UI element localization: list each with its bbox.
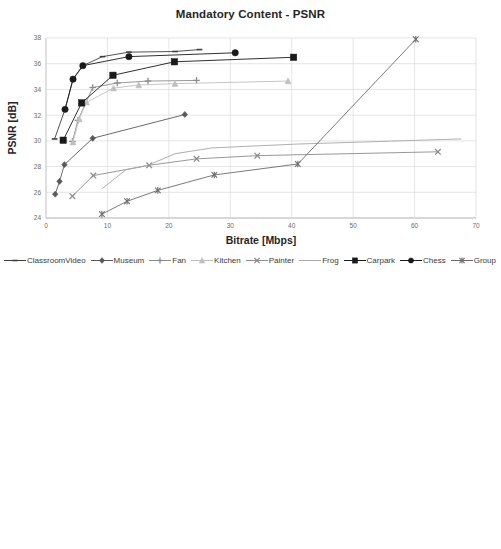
legend-item-painter[interactable]: Painter xyxy=(246,256,295,265)
legend-item-classroomvideo[interactable]: ClassroomVideo xyxy=(4,256,87,265)
y-tick-label: 34 xyxy=(34,86,42,93)
y-axis-title: PSNR [dB] xyxy=(6,101,18,154)
legend-label: Fan xyxy=(172,256,187,265)
x-tick-label: 10 xyxy=(104,222,112,229)
legend-item-kitchen[interactable]: Kitchen xyxy=(191,256,242,265)
series-carpark xyxy=(60,54,297,143)
series-museum xyxy=(52,111,187,197)
x-tick-label: 0 xyxy=(44,222,48,229)
legend-label: Painter xyxy=(269,256,295,265)
legend-marker-icon xyxy=(246,256,268,265)
x-tick-label: 60 xyxy=(411,222,419,229)
y-tick-label: 36 xyxy=(34,60,42,67)
series-frog xyxy=(103,139,462,189)
legend-marker-icon xyxy=(149,256,171,265)
series-painter xyxy=(70,149,441,199)
x-tick-label: 40 xyxy=(288,222,296,229)
legend-label: Carpark xyxy=(367,256,396,265)
y-tick-label: 24 xyxy=(34,214,42,221)
legend-label: ClassroomVideo xyxy=(27,256,87,265)
legend-marker-icon xyxy=(451,256,473,265)
x-tick-label: 30 xyxy=(227,222,235,229)
x-axis-title: Bitrate [Mbps] xyxy=(226,234,297,246)
series-classroomvideo xyxy=(52,50,203,139)
x-tick-label: 70 xyxy=(472,222,480,229)
chart-page: Mandatory Content - PSNR 242628303234363… xyxy=(0,0,501,549)
plot-area-mandatory: 2426283032343638010203040506070Bitrate [… xyxy=(0,22,501,250)
legend-marker-icon xyxy=(4,256,26,265)
legend-item-museum[interactable]: Museum xyxy=(91,256,146,265)
legend-label: Group xyxy=(474,256,497,265)
y-tick-label: 30 xyxy=(34,137,42,144)
legend-item-frog[interactable]: Frog xyxy=(299,256,339,265)
series-kitchen xyxy=(70,78,291,145)
mandatory-content-chart: Mandatory Content - PSNR 242628303234363… xyxy=(0,0,501,277)
legend-label: Kitchen xyxy=(214,256,242,265)
y-tick-label: 32 xyxy=(34,112,42,119)
legend-item-group[interactable]: Group xyxy=(451,256,497,265)
legend-mandatory: ClassroomVideoMuseumFanKitchenPainterFro… xyxy=(0,256,501,265)
y-tick-label: 28 xyxy=(34,163,42,170)
series-group xyxy=(99,36,419,217)
plot-svg-mandatory: 2426283032343638010203040506070Bitrate [… xyxy=(0,22,501,250)
legend-label: Chess xyxy=(423,256,447,265)
chart-title-mandatory: Mandatory Content - PSNR xyxy=(0,8,501,20)
legend-item-fan[interactable]: Fan xyxy=(149,256,187,265)
y-tick-label: 26 xyxy=(34,189,42,196)
legend-marker-icon xyxy=(191,256,213,265)
legend-label: Frog xyxy=(322,256,339,265)
legend-item-carpark[interactable]: Carpark xyxy=(344,256,396,265)
legend-label: Museum xyxy=(114,256,146,265)
legend-marker-icon xyxy=(299,256,321,265)
legend-marker-icon xyxy=(344,256,366,265)
optional-content-chart: Optional Content - PSNR 2527293133353739… xyxy=(0,277,501,549)
x-tick-label: 20 xyxy=(165,222,173,229)
legend-marker-icon xyxy=(91,256,113,265)
x-tick-label: 50 xyxy=(350,222,358,229)
y-tick-label: 38 xyxy=(34,34,42,41)
legend-marker-icon xyxy=(400,256,422,265)
series-fan xyxy=(69,77,200,145)
legend-item-chess[interactable]: Chess xyxy=(400,256,447,265)
